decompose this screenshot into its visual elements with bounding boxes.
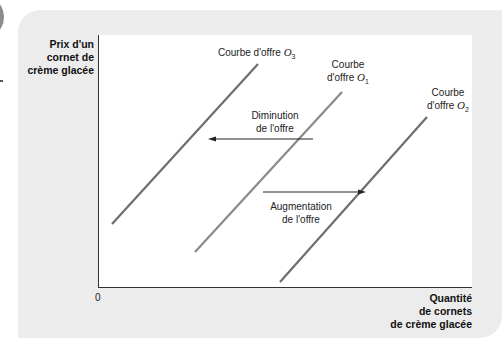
curve-label-o2-subscript: 2	[465, 106, 469, 113]
curve-label-o3-text: Courbe d'offre	[218, 47, 284, 58]
decrease-annotation-line-1: Diminution	[240, 109, 310, 122]
y-label-line-3: crème glacée	[22, 64, 94, 77]
decrease-annotation-line-2: de l'offre	[240, 122, 310, 135]
x-label-line-2: de cornets	[332, 305, 472, 318]
curve-label-o3: Courbe d'offre O3	[218, 46, 296, 63]
curve-label-o1-symbol: O	[357, 71, 365, 83]
y-label-line-2: cornet de	[22, 51, 94, 64]
curve-label-o1-line-1: Courbe	[318, 58, 378, 71]
curve-label-o2-line-1: Courbe	[418, 86, 478, 99]
decrease-arrowhead-icon	[208, 137, 216, 142]
increase-annotation: Augmentation de l'offre	[256, 200, 346, 226]
curve-label-o2-line-2: d'offre	[427, 100, 457, 111]
y-axis-label: Prix d'un cornet de crème glacée	[22, 38, 94, 77]
decrease-annotation: Diminution de l'offre	[240, 109, 310, 135]
origin-label: 0	[95, 292, 101, 303]
curve-label-o2-symbol: O	[457, 99, 465, 111]
x-label-line-1: Quantité	[332, 292, 472, 305]
x-label-line-3: de crème glacée	[332, 318, 472, 331]
curve-label-o3-symbol: O	[284, 46, 292, 58]
increase-annotation-line-2: de l'offre	[256, 213, 346, 226]
curve-label-o2: Courbe d'offre O2	[418, 86, 478, 116]
curve-label-o3-subscript: 3	[292, 53, 296, 60]
increase-annotation-line-1: Augmentation	[256, 200, 346, 213]
curve-label-o1: Courbe d'offre O1	[318, 58, 378, 88]
supply-curve-o3	[112, 64, 258, 224]
curve-label-o1-line-2: d'offre	[327, 72, 357, 83]
y-label-line-1: Prix d'un	[22, 38, 94, 51]
x-axis-label: Quantité de cornets de crème glacée	[332, 292, 472, 331]
curve-label-o1-subscript: 1	[365, 78, 369, 85]
